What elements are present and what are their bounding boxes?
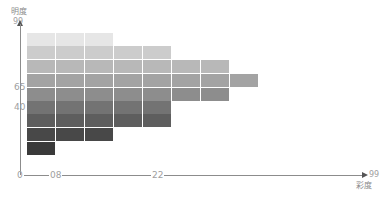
tone-cell <box>27 114 55 127</box>
x-axis-line <box>24 175 364 176</box>
tone-cell <box>56 128 84 141</box>
tone-cell <box>27 128 55 141</box>
tone-cell <box>56 88 84 101</box>
tone-cell <box>201 60 229 73</box>
tone-cell <box>56 101 84 114</box>
tone-cell <box>143 101 171 114</box>
tone-cell <box>56 114 84 127</box>
x-axis-arrow-icon <box>362 172 368 178</box>
tone-cell <box>27 33 55 46</box>
tone-cell <box>85 74 113 87</box>
tone-cell <box>56 46 84 59</box>
tone-cell <box>114 46 142 59</box>
tone-cell <box>85 114 113 127</box>
x-axis-title: 彩度 <box>356 182 372 190</box>
tone-cell <box>114 101 142 114</box>
tone-cell <box>56 33 84 46</box>
tone-cell <box>172 60 200 73</box>
tone-cell <box>27 60 55 73</box>
tone-cell <box>85 46 113 59</box>
tone-cell <box>27 142 55 155</box>
tone-cell <box>143 88 171 101</box>
x-tick-08: 08 <box>49 171 62 180</box>
tone-cell <box>85 101 113 114</box>
tone-cell <box>114 74 142 87</box>
tone-cell <box>27 74 55 87</box>
tone-cell <box>172 74 200 87</box>
tone-cell <box>27 88 55 101</box>
tone-cell <box>143 60 171 73</box>
tone-cell <box>230 74 258 87</box>
tone-cell <box>56 74 84 87</box>
y-axis-line <box>20 24 21 175</box>
tone-cell <box>143 74 171 87</box>
y-axis-title: 明度 <box>11 8 27 16</box>
origin-label: 0 <box>17 171 23 180</box>
tone-cell <box>85 88 113 101</box>
tone-cell <box>27 46 55 59</box>
tone-cell <box>143 114 171 127</box>
tone-cell <box>114 88 142 101</box>
lightness-chroma-chart: 明度 99 65 40 0 08 22 99 彩度 <box>0 0 382 201</box>
tone-cell <box>143 46 171 59</box>
tone-cell <box>114 60 142 73</box>
tone-cell <box>85 60 113 73</box>
y-tick-40: 40 <box>14 103 25 112</box>
tone-cell <box>85 33 113 46</box>
tone-cell <box>56 60 84 73</box>
tone-cell <box>201 88 229 101</box>
y-tick-65: 65 <box>14 83 25 92</box>
tone-cell <box>27 101 55 114</box>
tone-cell <box>85 128 113 141</box>
tone-cell <box>172 88 200 101</box>
x-tick-99: 99 <box>369 171 379 179</box>
x-tick-22: 22 <box>151 171 164 180</box>
tone-cell <box>201 74 229 87</box>
tone-cell <box>114 114 142 127</box>
